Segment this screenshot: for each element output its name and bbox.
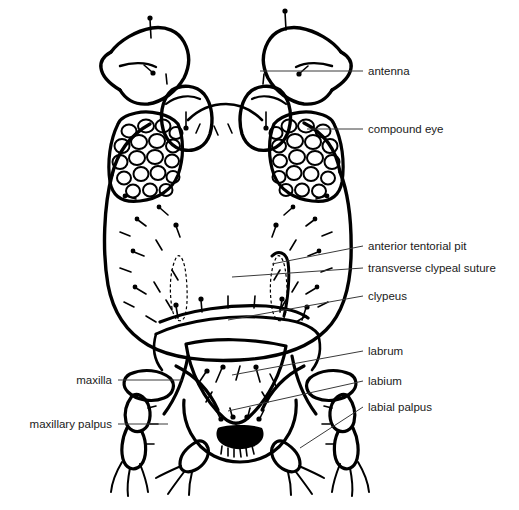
label-antenna: antenna [368,65,410,77]
anatomy-illustration: antenna compound eye anterior tentorial … [0,0,519,510]
label-labium: labium [368,375,402,387]
label-anterior-tentorial-pit: anterior tentorial pit [368,240,467,252]
label-compound-eye: compound eye [368,123,443,135]
label-labrum: labrum [368,345,403,357]
figure-root: antenna compound eye anterior tentorial … [0,0,519,510]
label-transverse-clypeal-suture: transverse clypeal suture [368,262,496,274]
label-maxillary-palpus: maxillary palpus [30,418,113,430]
label-maxilla: maxilla [76,374,112,386]
label-clypeus: clypeus [368,290,407,302]
label-labial-palpus: labial palpus [368,401,432,413]
